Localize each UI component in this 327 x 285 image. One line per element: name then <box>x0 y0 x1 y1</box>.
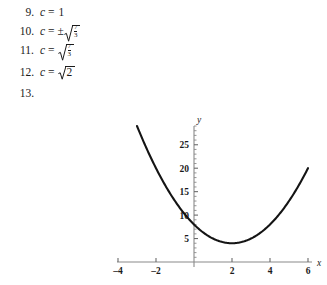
fraction-numerator: 7 <box>68 43 72 50</box>
list-item-number: 13. <box>0 87 40 99</box>
variable-c: c <box>40 25 45 37</box>
list-item: 9. c = 1 <box>0 6 170 25</box>
answer-key-list: 9. c = 1 10. c = ± 7 3 <box>0 0 170 106</box>
x-tick-label: 2 <box>230 266 235 276</box>
fraction-numerator: 7 <box>74 24 78 31</box>
fraction-denominator: 3 <box>68 50 72 58</box>
radicand: 2 <box>65 66 76 78</box>
variable-c: c <box>40 6 45 18</box>
parabola-curve <box>137 126 308 243</box>
y-tick-label: 20 <box>180 164 190 174</box>
equals-sign: = <box>48 6 55 18</box>
fraction: 7 3 <box>67 43 73 59</box>
variable-c: c <box>40 66 45 78</box>
list-item-number: 9. <box>0 6 40 18</box>
fraction-denominator: 3 <box>74 31 78 39</box>
y-axis-label: y <box>196 115 202 125</box>
list-item-number: 10. <box>0 25 40 37</box>
radical-expression: 7 3 <box>64 25 81 37</box>
list-item: 12. c = 2 <box>0 66 170 87</box>
equals-sign: = <box>48 44 55 56</box>
radical-expression: 2 <box>58 66 76 78</box>
equals-sign: = <box>48 25 55 37</box>
radicand: 7 3 <box>66 44 75 56</box>
list-item: 10. c = ± 7 3 <box>0 25 170 44</box>
y-tick-label: 15 <box>180 187 190 197</box>
parabola-graph: –4–2246510152025 x y <box>104 104 327 285</box>
x-axis-label: x <box>316 258 322 268</box>
list-item: 11. c = 7 3 <box>0 44 170 66</box>
list-item-expression: c = 1 <box>40 6 65 19</box>
list-item-number: 11. <box>0 44 40 56</box>
y-tick-label: 25 <box>180 140 190 150</box>
x-tick-label: 6 <box>306 266 311 276</box>
y-tick-label: 5 <box>184 234 189 244</box>
variable-c: c <box>40 44 45 56</box>
list-item-expression: c = 2 <box>40 66 75 78</box>
equals-sign: = <box>48 66 55 78</box>
radical-expression: 7 3 <box>58 44 75 56</box>
list-item-number: 12. <box>0 66 40 78</box>
fraction: 7 3 <box>73 24 79 40</box>
radicand: 7 3 <box>72 25 81 37</box>
x-tick-label: –4 <box>112 266 123 276</box>
answer-value: 1 <box>58 6 66 19</box>
x-tick-label: 4 <box>268 266 273 276</box>
list-item-expression: c = ± 7 3 <box>40 25 80 37</box>
x-tick-label: –2 <box>150 266 161 276</box>
answer-value: 2 <box>66 66 74 79</box>
list-item-expression: c = 7 3 <box>40 44 74 56</box>
graph-canvas: –4–2246510152025 x y <box>104 104 327 285</box>
